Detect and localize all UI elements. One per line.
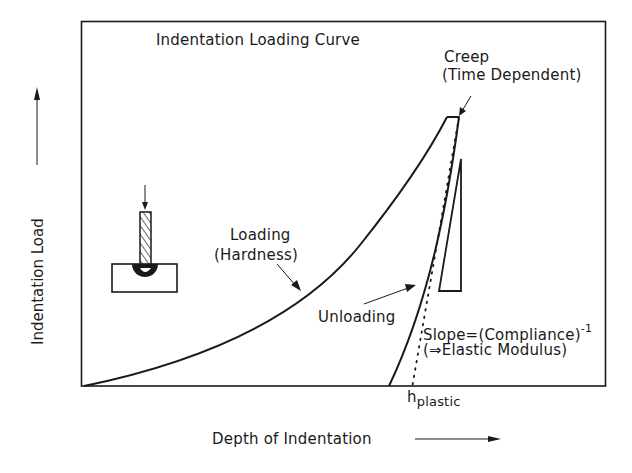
loading-sublabel: (Hardness) [214, 247, 298, 264]
y-axis-arrowhead [34, 87, 40, 100]
creep-arrowhead [459, 107, 466, 116]
h-symbol: h [407, 388, 417, 406]
creep-sublabel: (Time Dependent) [442, 67, 582, 84]
x-axis-arrowhead [488, 436, 501, 442]
unloading-arrowhead [405, 284, 416, 292]
h-subscript: plastic [417, 394, 461, 409]
unloading-arrow [364, 288, 408, 304]
elastic-modulus-label: (⇒Elastic Modulus) [423, 342, 567, 359]
slope-exponent: -1 [581, 322, 592, 335]
loading-arrow [277, 264, 296, 286]
y-axis-label: Indentation Load [29, 218, 47, 345]
x-axis-label: Depth of Indentation [212, 431, 372, 448]
indenter-sketch [112, 185, 177, 292]
creep-label: Creep [444, 49, 489, 66]
diagram-title: Indentation Loading Curve [156, 32, 360, 49]
unloading-label: Unloading [318, 309, 396, 326]
loading-label: Loading [230, 227, 291, 244]
creep-arrow [462, 96, 471, 111]
h-plastic-label: hplastic [407, 389, 461, 410]
